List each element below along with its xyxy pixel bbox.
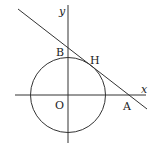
y-axis-label: y [58, 5, 66, 18]
tangent-line [18, 9, 147, 109]
origin-label: O [55, 99, 64, 112]
point-a-label: A [122, 100, 132, 113]
diagram-canvas: y x O B H A [0, 0, 157, 154]
x-axis-label: x [141, 83, 148, 96]
diagram: y x O B H A [0, 0, 157, 154]
point-b-label: B [56, 46, 64, 59]
point-h-label: H [90, 54, 100, 67]
